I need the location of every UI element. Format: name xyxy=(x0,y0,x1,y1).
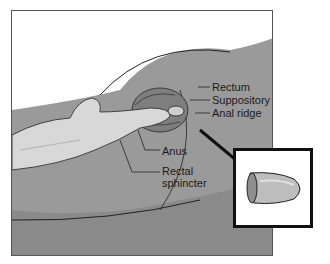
label-rectum: Rectum xyxy=(212,81,250,93)
suppository-shape xyxy=(168,106,184,116)
label-rectal-sphincter-2: sphincter xyxy=(162,177,207,189)
label-anus: Anus xyxy=(162,145,187,157)
label-rectal-sphincter-1: Rectal xyxy=(162,165,193,177)
suppository-closeup-icon xyxy=(236,151,310,225)
suppository-inset xyxy=(233,148,313,228)
label-anal-ridge: Anal ridge xyxy=(212,107,262,119)
label-suppository: Suppository xyxy=(212,94,270,106)
